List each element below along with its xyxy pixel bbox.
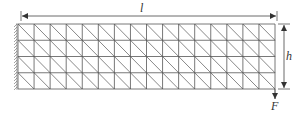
height-dimension: h <box>278 24 292 89</box>
mesh-diagonal-line <box>227 24 243 40</box>
support-hatch-line <box>14 63 17 66</box>
support-hatch-line <box>14 81 17 84</box>
mesh-diagonal-line <box>243 24 259 40</box>
mesh-diagonal-line <box>82 73 98 89</box>
support-hatch-line <box>14 45 17 48</box>
mesh-diagonal-line <box>98 73 114 89</box>
support-hatch-line <box>14 75 17 78</box>
mesh-diagonal-line <box>18 57 34 73</box>
mesh-diagonal-line <box>130 73 146 89</box>
mesh-diagonal-line <box>243 40 259 56</box>
mesh-diagonal-line <box>227 73 243 89</box>
mesh-diagonal-line <box>195 57 211 73</box>
mesh-diagonal-line <box>66 57 82 73</box>
mesh-diagonal-line <box>195 73 211 89</box>
mesh-diagonal-line <box>34 40 50 56</box>
support-hatch-line <box>14 33 17 36</box>
height-label: h <box>286 49 292 63</box>
support-hatch-line <box>14 24 17 27</box>
mesh-diagonal-line <box>34 57 50 73</box>
mesh-diagonal-line <box>147 73 163 89</box>
support-hatch-line <box>14 39 17 42</box>
support-hatch-line <box>14 42 17 45</box>
mesh-diagonal-line <box>82 40 98 56</box>
mesh-diagonal-line <box>227 40 243 56</box>
mesh-diagonal-line <box>163 24 179 40</box>
mesh-diagonal-line <box>211 24 227 40</box>
mesh-diagonal-line <box>195 40 211 56</box>
mesh-diagonal-line <box>114 57 130 73</box>
force-label: F <box>270 99 279 113</box>
cantilever-mesh-diagram: l h F <box>0 0 302 115</box>
mesh-diagonal-line <box>147 24 163 40</box>
mesh-diagonal-line <box>82 57 98 73</box>
fixed-support-hatching <box>14 23 17 90</box>
support-hatch-line <box>14 87 17 90</box>
mesh-diagonal-line <box>50 73 66 89</box>
mesh-diagonal-line <box>114 40 130 56</box>
mesh-diagonal-line <box>114 24 130 40</box>
mesh-diagonal-line <box>98 57 114 73</box>
force-arrow: F <box>270 89 279 113</box>
mesh-diagonal-line <box>163 40 179 56</box>
mesh-diagonal-line <box>179 24 195 40</box>
mesh-diagonal-line <box>211 73 227 89</box>
mesh-diagonal-line <box>211 57 227 73</box>
length-label: l <box>140 1 144 15</box>
mesh-diagonal-line <box>98 40 114 56</box>
mesh-diagonal-line <box>211 40 227 56</box>
mesh-diagonal-line <box>195 24 211 40</box>
mesh-diagonal-line <box>50 40 66 56</box>
mesh-grid <box>18 24 275 89</box>
support-hatch-line <box>14 57 17 60</box>
mesh-diagonal-line <box>259 57 275 73</box>
length-dimension: l <box>21 1 277 21</box>
mesh-diagonal-line <box>82 24 98 40</box>
mesh-diagonal-line <box>243 73 259 89</box>
support-hatch-line <box>14 78 17 81</box>
mesh-diagonal-line <box>18 73 34 89</box>
mesh-diagonal-line <box>227 57 243 73</box>
mesh-diagonal-line <box>130 40 146 56</box>
support-hatch-line <box>14 60 17 63</box>
mesh-diagonal-line <box>34 73 50 89</box>
support-hatch-line <box>14 30 17 33</box>
mesh-diagonal-line <box>179 40 195 56</box>
mesh-diagonal-line <box>66 73 82 89</box>
mesh-diagonal-line <box>243 57 259 73</box>
mesh-diagonal-line <box>66 24 82 40</box>
mesh-diagonal-line <box>18 40 34 56</box>
mesh-diagonal-line <box>130 24 146 40</box>
mesh-diagonal-line <box>259 73 275 89</box>
support-hatch-line <box>14 48 17 51</box>
mesh-diagonal-line <box>147 57 163 73</box>
mesh-diagonal-line <box>130 57 146 73</box>
support-hatch-line <box>14 54 17 57</box>
support-hatch-line <box>14 66 17 69</box>
mesh-diagonal-line <box>179 57 195 73</box>
support-hatch-line <box>14 72 17 75</box>
mesh-diagonal-line <box>114 73 130 89</box>
support-hatch-line <box>14 69 17 72</box>
mesh-diagonal-line <box>50 57 66 73</box>
mesh-diagonal-line <box>34 24 50 40</box>
mesh-diagonal-line <box>259 24 275 40</box>
mesh-diagonal-line <box>259 40 275 56</box>
support-hatch-line <box>14 51 17 54</box>
mesh-diagonal-line <box>163 57 179 73</box>
support-hatch-line <box>14 84 17 87</box>
mesh-diagonal-line <box>66 40 82 56</box>
mesh-diagonal-line <box>18 24 34 40</box>
mesh-diagonal-line <box>98 24 114 40</box>
support-hatch-line <box>14 27 17 30</box>
mesh-diagonal-line <box>147 40 163 56</box>
mesh-diagonal-line <box>50 24 66 40</box>
mesh-diagonal-line <box>163 73 179 89</box>
mesh-diagonal-line <box>179 73 195 89</box>
support-hatch-line <box>14 36 17 39</box>
